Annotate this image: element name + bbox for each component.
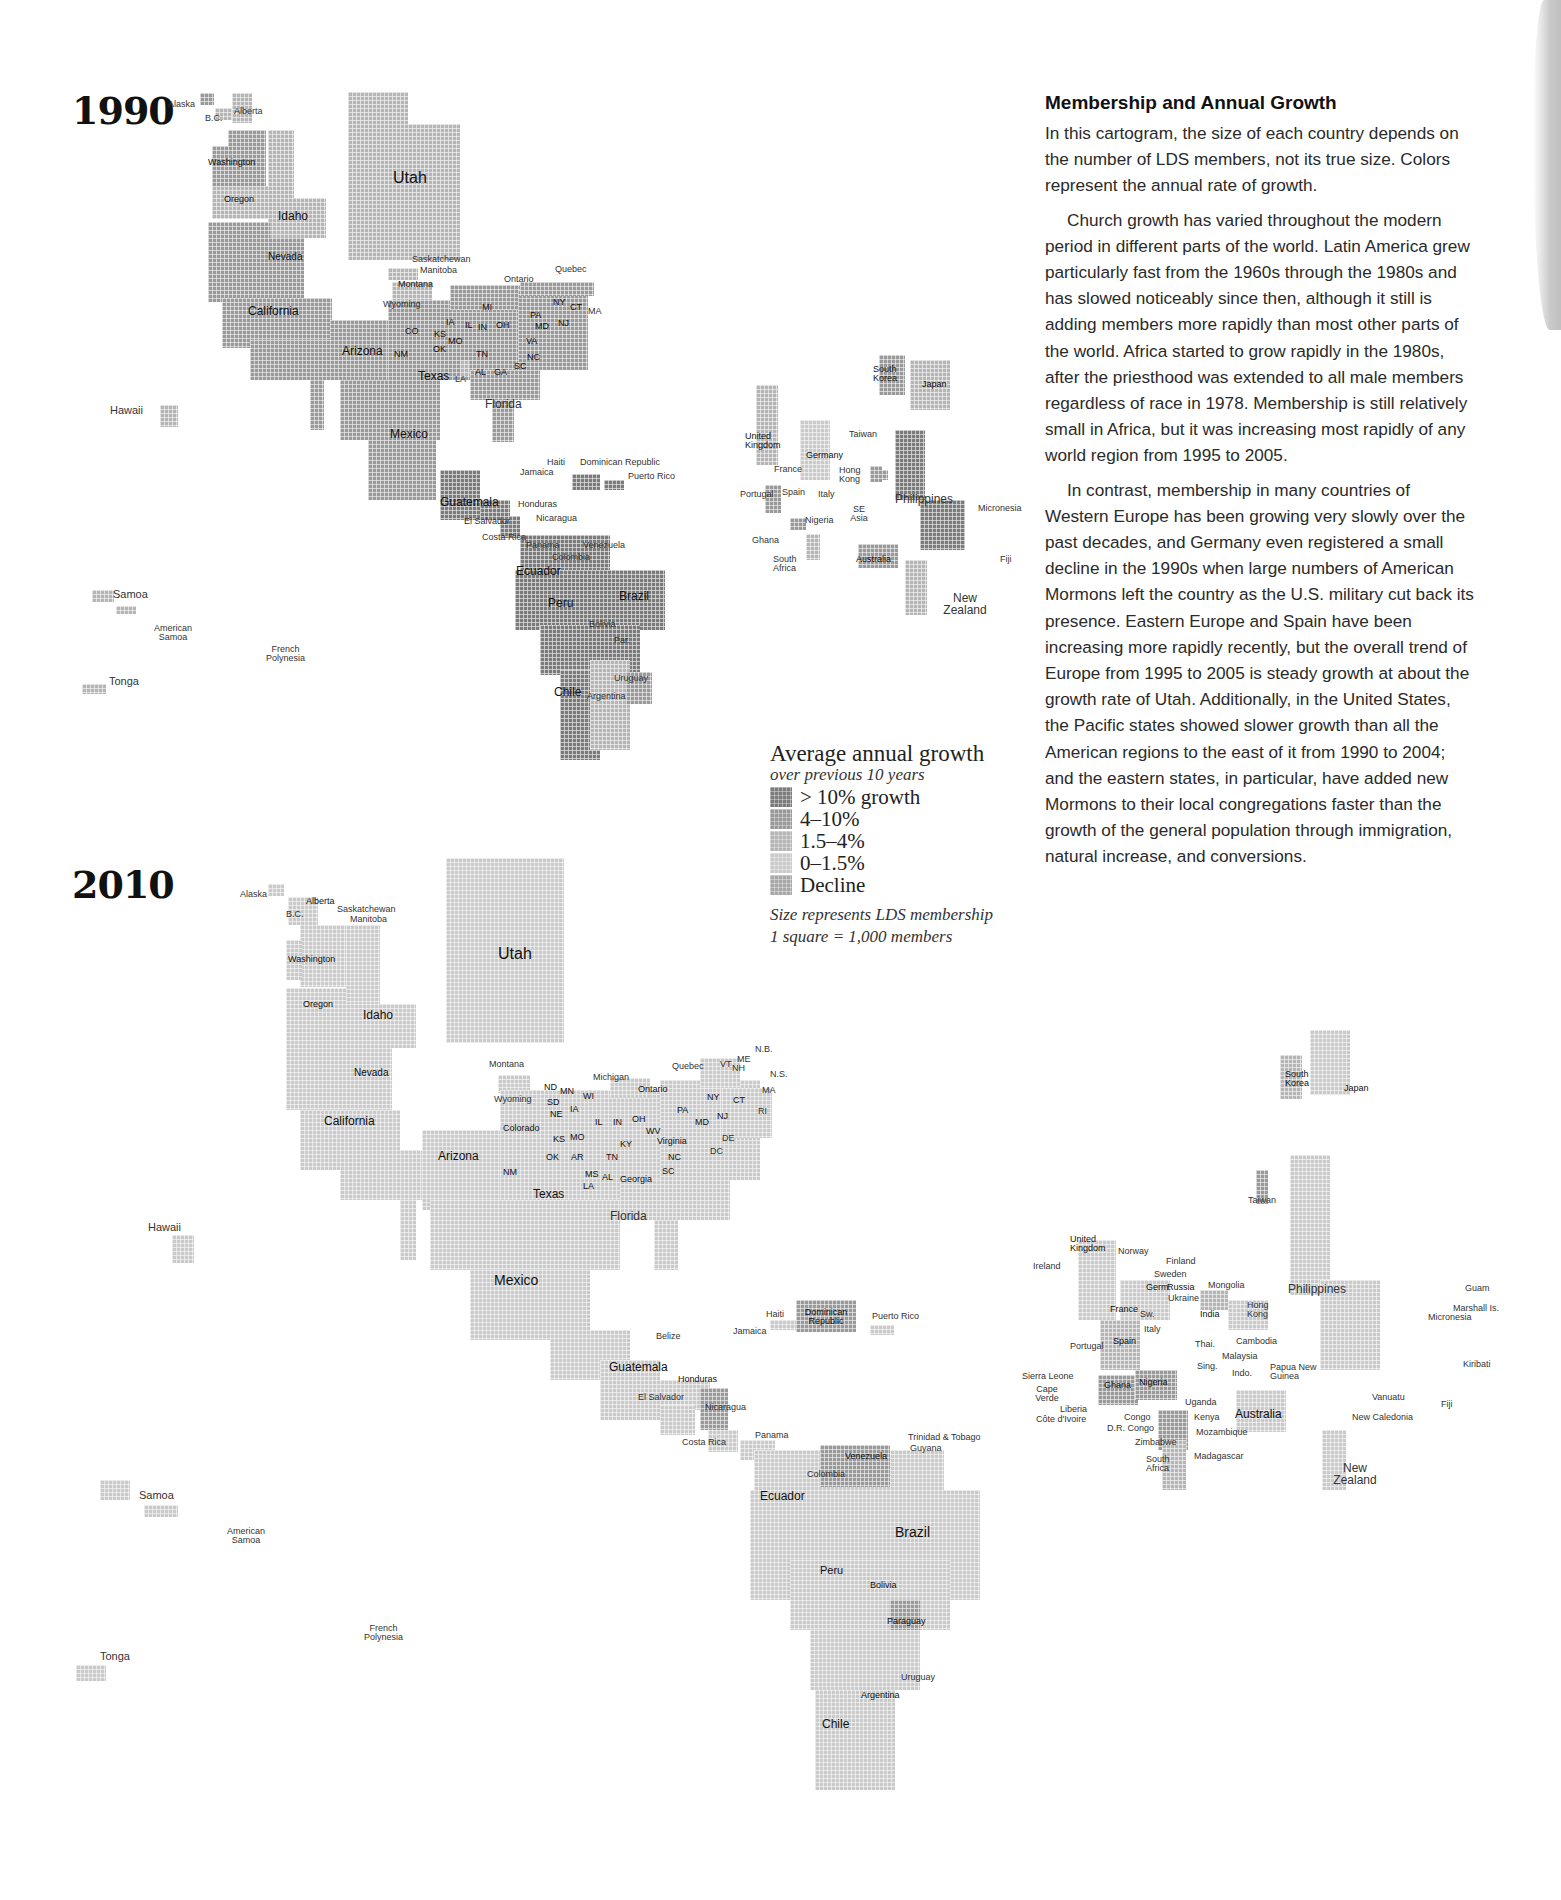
label-wi: WI (583, 1092, 594, 1101)
label-argentina: Argentina (587, 692, 626, 701)
label-colombia: Colombia (807, 1470, 845, 1479)
region-el-salvador (660, 1405, 695, 1435)
label-zimbabwe: Zimbabwe (1135, 1438, 1177, 1447)
label-micronesia: Micronesia (978, 504, 1022, 513)
label-tonga: Tonga (109, 676, 139, 687)
label-texas: Texas (533, 1188, 564, 1200)
region-chile-argentina (815, 1690, 895, 1790)
label-bolivia: Bolivia (589, 620, 616, 629)
label-thailand: Thai. (1195, 1340, 1215, 1349)
label-ks: KS (434, 330, 446, 339)
label-ny: NY (707, 1093, 720, 1102)
label-american-samoa: American Samoa (148, 624, 198, 642)
legend-swatch (770, 853, 792, 873)
region-philippines-north (895, 430, 925, 500)
region-california-north (286, 1020, 348, 1110)
label-quebec: Quebec (672, 1062, 704, 1071)
region-samoa (100, 1480, 130, 1500)
label-oh: OH (496, 321, 510, 330)
region-baja (400, 1200, 416, 1260)
label-ns: N.S. (770, 1070, 788, 1079)
legend-title: Average annual growth (770, 742, 1030, 766)
label-oregon: Oregon (224, 195, 254, 204)
region-nigeria (790, 518, 806, 530)
label-taiwan: Taiwan (849, 430, 877, 439)
label-idaho: Idaho (363, 1009, 393, 1021)
label-oh: OH (632, 1115, 646, 1124)
label-new-caledonia: New Caledonia (1352, 1413, 1413, 1422)
label-portugal: Portugal (1070, 1342, 1104, 1351)
label-nevada: Nevada (268, 252, 302, 262)
label-virginia: Virginia (657, 1137, 687, 1146)
label-wyoming: Wyoming (383, 300, 420, 309)
label-united-kingdom: United Kingdom (1070, 1235, 1110, 1253)
label-ecuador: Ecuador (760, 1490, 805, 1502)
region-texas-mexico (430, 1200, 620, 1270)
label-el-salvador: El Salvador (638, 1393, 684, 1402)
label-uruguay: Uruguay (901, 1673, 935, 1682)
legend-swatch (770, 831, 792, 851)
region-samoa-2 (116, 606, 136, 614)
article: Membership and Annual Growth In this car… (1045, 92, 1475, 878)
label-ia: IA (570, 1105, 579, 1114)
label-ks: KS (553, 1135, 565, 1144)
label-france: France (1110, 1305, 1138, 1314)
region-mexico (368, 440, 436, 500)
label-costa-rica: Costa Rica (682, 1438, 726, 1447)
label-south-africa: South Africa (1146, 1455, 1176, 1473)
region-arizona (422, 1130, 502, 1210)
label-jamaica: Jamaica (733, 1327, 767, 1336)
label-sd: SD (547, 1098, 560, 1107)
label-new-zealand: New Zealand (940, 592, 990, 616)
map-year-1990: 1990 (72, 88, 174, 133)
label-chile: Chile (822, 1718, 849, 1730)
label-argentina: Argentina (861, 1691, 900, 1700)
label-ia: IA (446, 318, 455, 327)
label-florida: Florida (485, 398, 522, 410)
article-paragraph-3: In contrast, membership in many countrie… (1045, 477, 1475, 870)
label-ok: OK (433, 345, 446, 354)
label-mexico: Mexico (390, 428, 428, 440)
region-dominican-republic (572, 474, 600, 490)
label-nm: NM (394, 350, 408, 359)
label-nh: NH (732, 1064, 745, 1073)
label-peru: Peru (820, 1565, 843, 1576)
label-guam: Guam (1465, 1284, 1490, 1293)
label-nigeria: Nigeria (805, 516, 834, 525)
label-colorado: Colorado (503, 1124, 540, 1133)
region-united-kingdom (756, 385, 778, 465)
label-costa-rica: Costa Rica (482, 533, 526, 542)
map-year-2010: 2010 (72, 862, 174, 907)
label-malaysia: Malaysia (1222, 1352, 1258, 1361)
legend-swatch (770, 875, 792, 895)
legend-swatch (770, 809, 792, 829)
label-ireland: Ireland (1033, 1262, 1061, 1271)
label-hawaii: Hawaii (148, 1222, 181, 1233)
label-sierra-leone: Sierra Leone (1022, 1372, 1074, 1381)
legend-item-1_5to4: 1.5–4% (770, 830, 1030, 852)
region-california-south (250, 340, 340, 380)
label-finland: Finland (1166, 1257, 1196, 1266)
region-hawaii (172, 1235, 194, 1263)
label-quebec: Quebec (555, 265, 587, 274)
label-cote-divoire: Côte d'Ivoire (1036, 1415, 1086, 1424)
label-spain: Spain (782, 488, 805, 497)
label-california: California (324, 1115, 375, 1127)
label-dc: DC (710, 1147, 723, 1156)
region-peru-bolivia (790, 1560, 950, 1630)
label-japan: Japan (922, 380, 947, 389)
label-sc: SC (514, 362, 527, 371)
label-ct: CT (570, 303, 582, 312)
article-paragraph-2: Church growth has varied throughout the … (1045, 207, 1475, 469)
label-australia: Australia (1235, 1408, 1282, 1420)
label-brazil: Brazil (619, 590, 649, 602)
label-ny: NY (553, 298, 566, 307)
label-ghana: Ghana (752, 536, 779, 545)
label-puerto-rico: Puerto Rico (872, 1312, 919, 1321)
article-title: Membership and Annual Growth (1045, 92, 1475, 114)
label-venezuela: Venezuela (583, 541, 625, 550)
label-ky: KY (620, 1140, 632, 1149)
label-cambodia: Cambodia (1236, 1337, 1277, 1346)
legend-size-note: Size represents LDS membership1 square =… (770, 904, 1030, 948)
legend-item-0to1_5: 0–1.5% (770, 852, 1030, 874)
